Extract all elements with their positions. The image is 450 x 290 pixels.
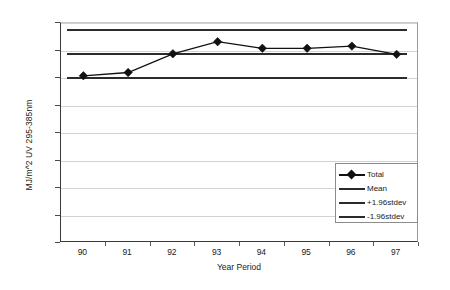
data-point-marker[interactable]	[213, 38, 221, 46]
uv-line-chart: MJ/m^2 UV 295-385nm Year Period 400.0035…	[0, 0, 450, 290]
legend-line-icon	[339, 216, 365, 218]
legend-item-label: Total	[367, 171, 384, 179]
data-point-marker[interactable]	[392, 50, 400, 58]
y-axis-tick-mark	[55, 242, 60, 243]
x-axis-tick-label: 93	[197, 247, 237, 257]
x-axis-tick-label: 95	[286, 247, 326, 257]
x-axis-tick-label: 91	[107, 247, 147, 257]
x-axis-tick-label: 97	[376, 247, 416, 257]
x-axis-title: Year Period	[60, 262, 418, 272]
legend-item-label: -1.96stdev	[367, 213, 404, 221]
legend-line-icon	[339, 188, 365, 190]
x-axis-tick-label: 96	[331, 247, 371, 257]
legend-swatch-icon	[339, 170, 365, 180]
legend-item-label: Mean	[367, 185, 387, 193]
legend-line-icon	[339, 202, 365, 204]
legend-swatch-icon	[339, 184, 365, 194]
legend-item-mean[interactable]: Mean	[336, 182, 417, 196]
x-axis-tick-label: 92	[152, 247, 192, 257]
data-point-marker[interactable]	[124, 68, 132, 76]
legend-swatch-icon	[339, 212, 365, 222]
x-axis-tick-label: 94	[241, 247, 281, 257]
data-point-marker[interactable]	[348, 42, 356, 50]
data-point-marker[interactable]	[79, 72, 87, 80]
legend[interactable]: TotalMean+1.96stdev-1.96stdev	[335, 163, 418, 223]
legend-item-1-96stdev[interactable]: -1.96stdev	[336, 210, 417, 224]
data-point-marker[interactable]	[258, 44, 266, 52]
y-axis-title: MJ/m^2 UV 295-385nm	[18, 0, 40, 290]
data-point-marker[interactable]	[303, 44, 311, 52]
data-point-marker[interactable]	[169, 50, 177, 58]
legend-item-1-96stdev[interactable]: +1.96stdev	[336, 196, 417, 210]
legend-item-total[interactable]: Total	[336, 168, 417, 182]
legend-swatch-icon	[339, 198, 365, 208]
x-axis-tick-label: 90	[62, 247, 102, 257]
legend-diamond-marker-icon	[347, 170, 357, 180]
legend-item-label: +1.96stdev	[367, 199, 406, 207]
